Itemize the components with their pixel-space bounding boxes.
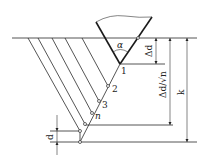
pass-1-label: 1 bbox=[121, 66, 127, 76]
d-label: d bbox=[45, 134, 55, 140]
pass-3-label: 3 bbox=[102, 100, 108, 110]
dimension-delta-d bbox=[155, 38, 158, 64]
infeed-line bbox=[80, 64, 120, 142]
angle-label: α bbox=[117, 40, 123, 50]
delta-d-sqrt-n-label: Δd/√n bbox=[158, 71, 168, 98]
pass-2-label: 2 bbox=[112, 84, 118, 94]
diagram-canvas: α Δd Δd/√n k d 1 2 3 n bbox=[0, 0, 212, 167]
dimension-d bbox=[56, 115, 59, 155]
pass-n-label: n bbox=[95, 111, 101, 121]
delta-d-label: Δd bbox=[144, 45, 154, 57]
k-label: k bbox=[176, 89, 186, 95]
dimension-delta-d-sqrt-n bbox=[169, 38, 172, 125]
